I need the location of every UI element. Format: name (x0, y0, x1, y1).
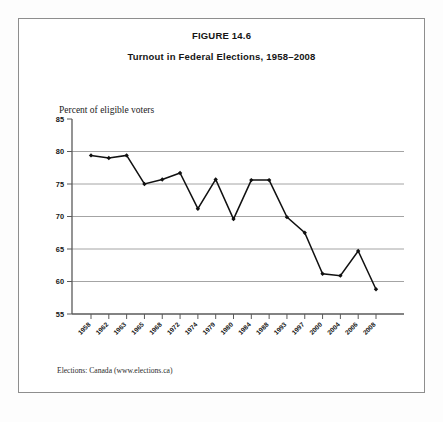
y-tick-label-55: 55 (56, 310, 64, 319)
gridlines-group (72, 152, 404, 282)
chart-plot-area: 55606570758085 1958196219631965196819721… (19, 19, 426, 394)
y-tick-label-65: 65 (56, 245, 64, 254)
data-point-1980 (231, 217, 235, 221)
line-chart: 55606570758085 1958196219631965196819721… (19, 19, 426, 394)
x-tick-marks-group (91, 314, 376, 319)
x-tick-label-1993: 1993 (272, 321, 288, 337)
y-tick-label-70: 70 (56, 212, 64, 221)
y-tick-label-80: 80 (56, 147, 64, 156)
y-tick-label-75: 75 (56, 180, 64, 189)
y-axis-group (67, 119, 72, 314)
data-point-1958 (89, 153, 93, 157)
x-tick-label-1984: 1984 (237, 321, 253, 337)
x-tick-label-2008: 2008 (361, 321, 377, 337)
figure-page: FIGURE 14.6 Turnout in Federal Elections… (0, 0, 443, 422)
x-tick-label-1980: 1980 (219, 321, 235, 337)
data-series-group (91, 155, 376, 289)
x-tick-label-1962: 1962 (94, 321, 110, 337)
data-points-group (89, 153, 378, 291)
x-tick-label-1988: 1988 (255, 321, 271, 337)
data-point-1962 (107, 156, 111, 160)
y-tick-label-60: 60 (56, 277, 64, 286)
x-tick-label-2000: 2000 (308, 321, 324, 337)
source-note: Elections: Canada (www.elections.ca) (57, 366, 172, 375)
x-tick-label-1979: 1979 (201, 321, 217, 337)
data-point-1968 (160, 177, 164, 181)
turnout-line (91, 155, 376, 289)
x-tick-label-1958: 1958 (76, 321, 92, 337)
y-tick-labels-group: 55606570758085 (56, 115, 64, 319)
x-tick-label-1972: 1972 (165, 321, 181, 337)
x-tick-label-1974: 1974 (183, 321, 199, 337)
x-tick-label-1997: 1997 (290, 321, 306, 337)
x-tick-labels-group: 1958196219631965196819721974197919801984… (76, 321, 377, 337)
x-tick-label-1968: 1968 (148, 321, 164, 337)
x-tick-label-1965: 1965 (130, 321, 146, 337)
figure-frame: FIGURE 14.6 Turnout in Federal Elections… (18, 18, 425, 393)
x-tick-label-2004: 2004 (326, 321, 342, 337)
x-tick-label-2006: 2006 (344, 321, 360, 337)
y-tick-label-85: 85 (56, 115, 64, 124)
data-point-1984 (249, 178, 253, 182)
x-tick-label-1963: 1963 (112, 321, 128, 337)
data-point-2000 (320, 272, 324, 276)
